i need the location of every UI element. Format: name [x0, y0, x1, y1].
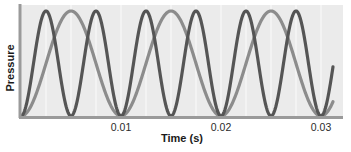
x-axis-label: Time (s): [158, 132, 206, 144]
y-axis-label: Pressure: [3, 44, 17, 92]
x-tick-label-0.01: 0.01: [106, 121, 136, 133]
x-tick-label-0.02: 0.02: [206, 121, 236, 133]
x-tick-label-0.03: 0.03: [306, 121, 336, 133]
pressure-time-chart: [0, 0, 351, 152]
